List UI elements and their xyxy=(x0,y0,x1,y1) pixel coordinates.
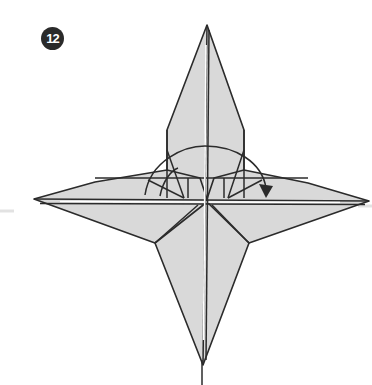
origami-diagram xyxy=(0,0,372,385)
